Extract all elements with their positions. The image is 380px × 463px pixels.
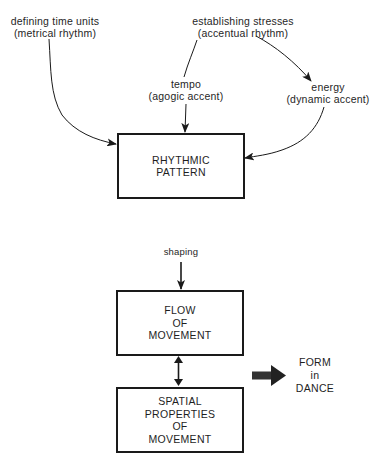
spatial-line1: SPATIAL bbox=[158, 395, 202, 408]
energy-label: energy (dynamic accent) bbox=[285, 81, 371, 105]
bidirectional-arrow bbox=[174, 356, 183, 386]
tempo-to-rhythmic-arrow bbox=[185, 104, 186, 132]
flow-line3: MOVEMENT bbox=[148, 329, 211, 342]
energy-to-rhythmic-arrow bbox=[245, 107, 324, 158]
spatial-line3: OF bbox=[172, 420, 187, 433]
spatial-properties-box: SPATIAL PROPERTIES OF MOVEMENT bbox=[116, 387, 244, 453]
accentual-to-energy-arrow bbox=[256, 36, 311, 81]
form-arrow-icon bbox=[252, 365, 286, 386]
flow-line1: FLOW bbox=[164, 304, 196, 317]
spatial-line4: MOVEMENT bbox=[148, 433, 211, 446]
spatial-line2: PROPERTIES bbox=[145, 408, 216, 421]
form-line1: FORM bbox=[290, 356, 340, 369]
accentual-rhythm-label: establishing stresses (accentual rhythm) bbox=[190, 15, 296, 39]
flow-of-movement-box: FLOW OF MOVEMENT bbox=[116, 290, 244, 356]
form-in-dance-label: FORM in DANCE bbox=[290, 356, 340, 395]
energy-line1: energy bbox=[285, 81, 371, 93]
tempo-line2: (agogic accent) bbox=[143, 90, 229, 102]
shaping-label: shaping bbox=[151, 246, 211, 258]
metrical-rhythm-label: defining time units (metrical rhythm) bbox=[10, 15, 100, 39]
metrical-line1: defining time units bbox=[10, 15, 100, 27]
rhythmic-pattern-line2: PATTERN bbox=[156, 166, 206, 179]
accentual-line2: (accentual rhythm) bbox=[190, 27, 296, 39]
flow-line2: OF bbox=[172, 317, 187, 330]
accentual-to-tempo-line bbox=[184, 40, 197, 77]
form-line3: DANCE bbox=[290, 382, 340, 395]
energy-line2: (dynamic accent) bbox=[285, 93, 371, 105]
tempo-label: tempo (agogic accent) bbox=[143, 78, 229, 102]
metrical-to-rhythmic-arrow bbox=[49, 39, 116, 144]
metrical-line2: (metrical rhythm) bbox=[10, 27, 100, 39]
accentual-line1: establishing stresses bbox=[190, 15, 296, 27]
tempo-line1: tempo bbox=[143, 78, 229, 90]
rhythmic-pattern-line1: RHYTHMIC bbox=[152, 154, 210, 167]
form-line2: in bbox=[290, 369, 340, 382]
rhythmic-pattern-box: RHYTHMIC PATTERN bbox=[117, 133, 245, 199]
